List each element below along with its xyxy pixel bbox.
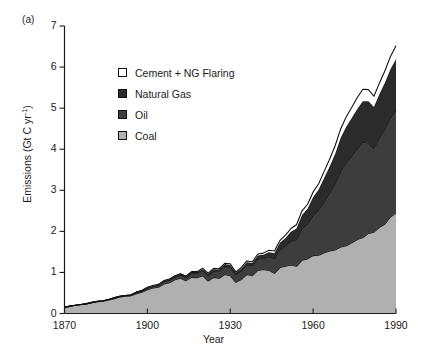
legend-label: Coal (135, 130, 157, 142)
legend-label: Natural Gas (135, 88, 191, 100)
legend-item: Oil (118, 104, 235, 125)
legend-swatch-icon (118, 131, 127, 140)
emissions-figure: (a) Emissions (Gt C yr-1) Year 01234567 … (0, 0, 427, 358)
legend-item: Coal (118, 125, 235, 146)
legend-item: Natural Gas (118, 83, 235, 104)
legend-item: Cement + NG Flaring (118, 62, 235, 83)
legend-swatch-icon (118, 89, 127, 98)
legend-swatch-icon (118, 68, 127, 77)
legend-swatch-icon (118, 110, 127, 119)
legend: Cement + NG FlaringNatural GasOilCoal (118, 62, 235, 146)
legend-label: Cement + NG Flaring (135, 67, 235, 79)
legend-label: Oil (135, 109, 148, 121)
stacked-area-plot (0, 0, 427, 358)
